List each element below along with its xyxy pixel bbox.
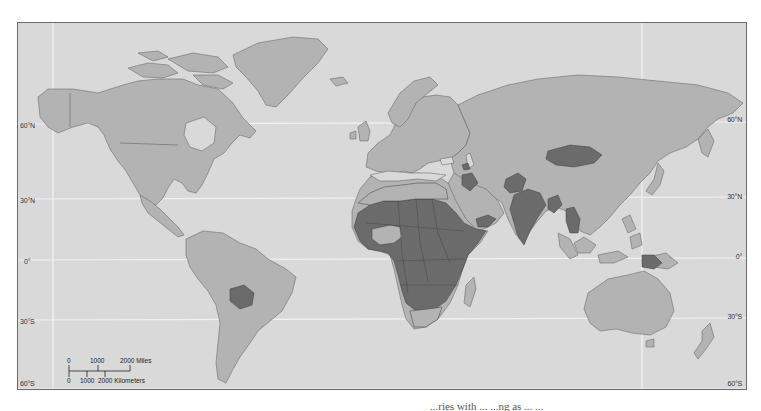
north-america xyxy=(38,79,256,205)
central-america xyxy=(140,195,184,237)
scale-miles-0: 0 xyxy=(67,357,71,364)
scale-miles-1000: 1000 xyxy=(90,357,104,364)
scale-km-1000: 1000 xyxy=(80,377,94,384)
lat-label-right-60n: 60°N xyxy=(727,116,742,123)
mediterranean xyxy=(370,171,446,181)
scale-km-2000: 2000 Kilometers xyxy=(98,377,145,384)
lat-label-left-0: 0° xyxy=(24,258,30,265)
lat-label-left-30s: 30°S xyxy=(20,318,34,325)
greenland xyxy=(233,37,328,107)
lat-label-left-60s: 60°S xyxy=(20,380,34,387)
lat-label-left-60n: 60°N xyxy=(20,122,35,129)
australia xyxy=(584,271,674,335)
map-caption: ...ries with ... ...ng as ... ... xyxy=(430,400,750,411)
scale-miles-2000: 2000 Miles xyxy=(120,357,151,364)
scale-bar-graphic xyxy=(68,365,138,377)
lat-label-right-0: 0° xyxy=(736,253,742,260)
lat-label-right-30n: 30°N xyxy=(727,193,742,200)
scale-km-0: 0 xyxy=(67,377,71,384)
lat-label-right-60s: 60°S xyxy=(728,380,742,387)
map-canvas xyxy=(18,23,747,390)
world-map: 60°N 30°N 0° 30°S 60°S 60°N 30°N 0° 30°S… xyxy=(17,22,747,390)
lat-label-left-30n: 30°N xyxy=(20,197,35,204)
lat-label-right-30s: 30°S xyxy=(728,313,742,320)
scale-bar: 0 1000 2000 Miles 0 1000 2000 Kilometers xyxy=(52,357,172,387)
